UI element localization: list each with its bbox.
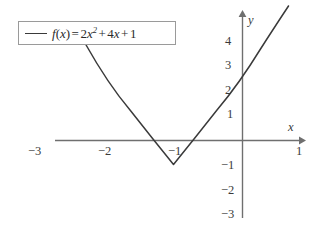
equation-term-x-linear: x (114, 26, 120, 41)
y-axis (239, 10, 247, 218)
y-tick-label: 2 (225, 84, 231, 97)
x-tick-label: 1 (296, 145, 302, 158)
function-plot-figure: −3 −2 −1 1 4 3 2 1 −1 −2 −3 x y f(x)=2x2… (0, 0, 317, 228)
legend-equation-label: f(x)=2x2+4x+1 (52, 26, 136, 40)
legend[interactable]: f(x)=2x2+4x+1 (18, 21, 176, 45)
y-tick-label: 3 (225, 59, 231, 72)
y-tick-label: −3 (221, 208, 234, 221)
legend-line-swatch (25, 33, 47, 34)
x-tick-label: −3 (28, 145, 41, 158)
x-axis-label: x (288, 121, 294, 134)
y-tick-label: 4 (225, 35, 231, 48)
y-tick-label: 1 (227, 108, 233, 121)
x-tick-label: −2 (98, 145, 111, 158)
y-axis-arrowhead (239, 10, 247, 17)
x-tick-label: −1 (168, 145, 181, 158)
equation-plus-second: + (120, 26, 130, 41)
y-axis-label: y (248, 14, 254, 27)
y-tick-label: −1 (221, 159, 234, 172)
equation-equals: = (70, 26, 80, 41)
y-tick-label: −2 (221, 184, 234, 197)
equation-constant: 1 (130, 26, 137, 41)
equation-plus-first: + (97, 26, 107, 41)
